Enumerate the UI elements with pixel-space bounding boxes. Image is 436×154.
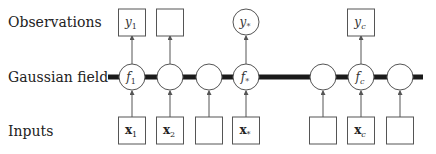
input-nodes: x1x2x*xc [119, 117, 414, 144]
input-node [196, 117, 223, 144]
observations-row-label: Observations [8, 14, 102, 30]
field-node [310, 64, 336, 90]
field-node [157, 64, 183, 90]
field-node [387, 64, 413, 90]
input-node [310, 117, 337, 144]
inputs-row-label: Inputs [8, 123, 53, 139]
gaussian-field-diagram: Observations Gaussian field Inputs f1f*f… [0, 0, 436, 154]
input-node [387, 117, 414, 144]
observation-node [157, 9, 184, 36]
field-node [196, 64, 222, 90]
gaussian-field-row-label: Gaussian field [8, 69, 108, 85]
observation-nodes: y1y*yc [119, 9, 375, 36]
